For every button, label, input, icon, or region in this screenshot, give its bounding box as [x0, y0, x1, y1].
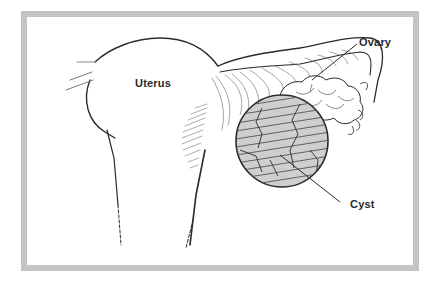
cyst-label: Cyst	[350, 198, 375, 210]
ovary-leader-line	[312, 44, 357, 80]
uterus-label: Uterus	[135, 77, 171, 89]
uterus-drawing	[66, 38, 218, 248]
ovary-label: Ovary	[359, 36, 391, 48]
